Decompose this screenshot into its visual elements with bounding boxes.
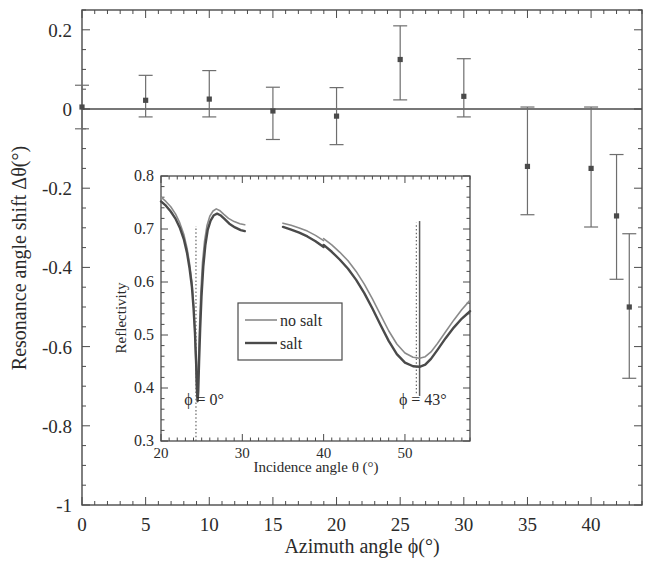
inset-x-axis-label: Incidence angle θ (°) bbox=[253, 459, 378, 476]
main-y-axis-label: Resonance angle shift Δθ(°) bbox=[8, 146, 31, 370]
data-point-marker bbox=[614, 213, 619, 218]
x-tick-label: 25 bbox=[391, 514, 410, 535]
inset-y-tick-label: 0.4 bbox=[134, 379, 154, 396]
x-tick-label: 15 bbox=[263, 514, 282, 535]
inset-annotation: ϕ = 43° bbox=[399, 391, 447, 409]
x-tick-label: 10 bbox=[200, 514, 219, 535]
data-point-marker bbox=[143, 98, 148, 103]
x-tick-label: 30 bbox=[454, 514, 473, 535]
inset-annotation: ϕ = 0° bbox=[184, 391, 224, 409]
legend-label-no-salt: no salt bbox=[280, 312, 323, 329]
inset-legend: no saltsalt bbox=[238, 303, 342, 360]
y-tick-label: -1 bbox=[56, 495, 72, 516]
inset-x-tick-label: 30 bbox=[235, 445, 250, 461]
inset-x-tick-label: 50 bbox=[397, 445, 412, 461]
inset-y-tick-label: 0.7 bbox=[134, 220, 154, 237]
data-point-marker bbox=[79, 104, 84, 109]
y-tick-label: -0.8 bbox=[42, 416, 72, 437]
y-tick-label: -0.4 bbox=[42, 257, 73, 278]
data-point-marker bbox=[588, 166, 593, 171]
data-point-marker bbox=[207, 97, 212, 102]
x-tick-label: 0 bbox=[77, 514, 87, 535]
data-point-marker bbox=[270, 108, 275, 113]
data-point-marker bbox=[398, 57, 403, 62]
data-point-marker bbox=[334, 114, 339, 119]
y-tick-label: -0.2 bbox=[42, 178, 72, 199]
legend-label-salt: salt bbox=[280, 335, 303, 352]
y-tick-label: -0.6 bbox=[42, 337, 72, 358]
x-tick-label: 5 bbox=[141, 514, 151, 535]
inset-x-tick-label: 20 bbox=[154, 445, 169, 461]
inset-y-tick-label: 0.6 bbox=[134, 273, 154, 290]
y-tick-label: 0.2 bbox=[48, 20, 72, 41]
inset-axes: 203040500.30.40.50.60.70.8 ϕ = 0°ϕ = 43°… bbox=[113, 167, 470, 476]
inset-y-tick-label: 0.3 bbox=[134, 432, 154, 449]
data-point-marker bbox=[525, 164, 530, 169]
figure-container: 05101520253035400.20-0.2-0.4-0.6-0.8-1 A… bbox=[0, 0, 661, 568]
main-x-axis-label: Azimuth angle ϕ(°) bbox=[284, 535, 439, 558]
x-tick-label: 40 bbox=[582, 514, 601, 535]
resonance-angle-shift-chart: 05101520253035400.20-0.2-0.4-0.6-0.8-1 A… bbox=[0, 0, 661, 568]
data-point-marker bbox=[461, 94, 466, 99]
inset-y-tick-label: 0.8 bbox=[134, 167, 154, 184]
inset-y-tick-label: 0.5 bbox=[134, 326, 154, 343]
x-tick-label: 20 bbox=[327, 514, 346, 535]
data-point-marker bbox=[627, 304, 632, 309]
inset-y-axis-label: Reflectivity bbox=[113, 282, 129, 353]
y-tick-label: 0 bbox=[63, 99, 73, 120]
x-tick-label: 35 bbox=[518, 514, 537, 535]
